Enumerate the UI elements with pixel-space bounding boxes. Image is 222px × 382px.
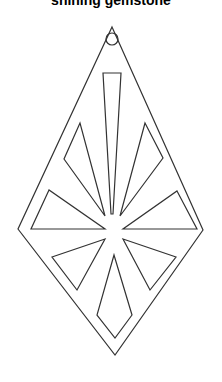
left-triangle-shard — [31, 190, 105, 229]
upper-left-shard — [64, 123, 105, 216]
lower-right-shard — [123, 239, 176, 290]
hanging-hole — [106, 33, 118, 45]
gemstone-artwork — [0, 0, 222, 382]
top-bar-shard — [103, 73, 121, 214]
upper-right-shard — [120, 123, 163, 216]
lower-left-shard — [52, 239, 105, 290]
bottom-kite-shard — [97, 255, 132, 338]
outer-diamond — [18, 27, 203, 355]
